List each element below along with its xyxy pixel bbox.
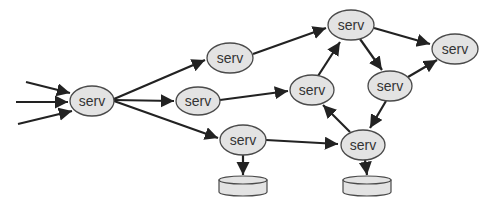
node-label: serv bbox=[230, 132, 256, 148]
service-node: serv bbox=[341, 130, 385, 160]
edge-arrow bbox=[253, 28, 326, 54]
arrow-line bbox=[360, 39, 382, 70]
service-node: serv bbox=[207, 43, 253, 73]
edge-arrow bbox=[370, 101, 386, 128]
arrow-line bbox=[266, 140, 338, 144]
arrow-line bbox=[114, 100, 174, 101]
edge-arrow bbox=[18, 111, 72, 124]
service-node: serv bbox=[176, 87, 220, 115]
service-nodes: servservservservservservservservserv bbox=[70, 10, 478, 160]
service-node: serv bbox=[290, 75, 334, 105]
service-node: serv bbox=[220, 125, 266, 155]
service-node: serv bbox=[368, 71, 412, 101]
database-disk-icon bbox=[219, 176, 267, 196]
node-label: serv bbox=[299, 82, 325, 98]
arrow-line bbox=[18, 111, 72, 124]
node-label: serv bbox=[442, 41, 468, 57]
arrow-line bbox=[365, 160, 367, 175]
arrow-line bbox=[253, 28, 326, 54]
edge-arrow bbox=[323, 105, 350, 132]
edge-arrow bbox=[360, 39, 382, 70]
database-disk-icon bbox=[343, 176, 391, 196]
edge-arrow bbox=[266, 140, 338, 144]
edge-arrow bbox=[408, 60, 437, 77]
node-label: serv bbox=[217, 50, 243, 66]
arrow-line bbox=[220, 91, 288, 100]
node-label: serv bbox=[79, 93, 105, 109]
arrow-line bbox=[323, 105, 350, 132]
service-graph-diagram: servservservservservservservservserv bbox=[0, 0, 493, 207]
edge-arrow bbox=[365, 160, 367, 175]
node-label: serv bbox=[338, 17, 364, 33]
arrow-line bbox=[370, 101, 386, 128]
storage-disks bbox=[219, 176, 391, 196]
service-node: serv bbox=[70, 86, 114, 116]
node-label: serv bbox=[185, 93, 211, 109]
arrow-line bbox=[318, 42, 340, 76]
arrow-line bbox=[408, 60, 437, 77]
node-label: serv bbox=[377, 78, 403, 94]
node-label: serv bbox=[350, 137, 376, 153]
edge-arrow bbox=[374, 28, 430, 44]
edge-arrow bbox=[114, 100, 174, 101]
arrow-line bbox=[374, 28, 430, 44]
edge-arrow bbox=[220, 91, 288, 100]
edge-arrow bbox=[318, 42, 340, 76]
service-node: serv bbox=[432, 34, 478, 64]
arrow-line bbox=[26, 82, 70, 93]
service-node: serv bbox=[328, 10, 374, 40]
edge-arrow bbox=[26, 82, 70, 93]
